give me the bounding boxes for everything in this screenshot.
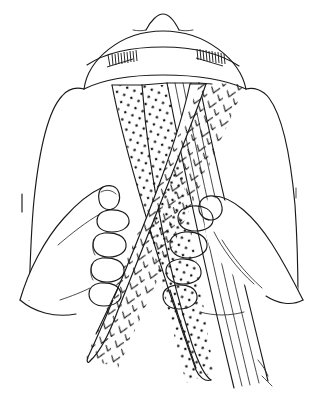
line-art-illustration <box>0 0 328 406</box>
illustration-canvas <box>0 0 328 406</box>
